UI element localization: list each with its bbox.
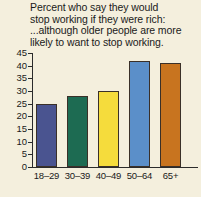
y-axis-tick-label: 45 [0, 48, 27, 58]
title-block: Percent who say they would stop working … [30, 2, 200, 48]
y-axis-tick-label: 15 [0, 124, 27, 134]
y-axis-tick-label: 10 [0, 137, 27, 147]
y-axis-tick [28, 154, 33, 155]
y-axis-tick-label: 0 [0, 162, 27, 172]
bar [67, 96, 88, 167]
y-axis-tick-label: 25 [0, 99, 27, 109]
bar [129, 61, 150, 167]
y-axis-tick [28, 142, 33, 143]
page-title: Percent who say they would stop working … [30, 2, 200, 25]
y-axis-tick-label: 5 [0, 149, 27, 159]
y-axis-tick [28, 116, 33, 117]
chart-subtitle: ...although older people are more likely… [30, 25, 200, 48]
y-axis-tick [28, 167, 33, 168]
y-axis-tick [28, 53, 33, 54]
bar [160, 63, 181, 167]
plot-area: 051015202530354045 18–2930–3940–4950–646… [32, 53, 198, 167]
y-axis-tick-label: 30 [0, 86, 27, 96]
bar [98, 91, 119, 167]
y-axis-tick [28, 104, 33, 105]
x-axis-line [32, 167, 198, 168]
y-axis-tick [28, 66, 33, 67]
y-axis-tick-label: 20 [0, 111, 27, 121]
y-axis-tick-label: 40 [0, 61, 27, 71]
y-axis-tick [28, 129, 33, 130]
y-axis-tick [28, 91, 33, 92]
x-axis-tick-label: 65+ [153, 171, 189, 181]
y-axis-line [32, 53, 33, 168]
y-axis-tick [28, 78, 33, 79]
bar-chart-figure: Percent who say they would stop working … [0, 0, 201, 197]
y-axis-tick-label: 35 [0, 73, 27, 83]
bar [36, 104, 57, 167]
